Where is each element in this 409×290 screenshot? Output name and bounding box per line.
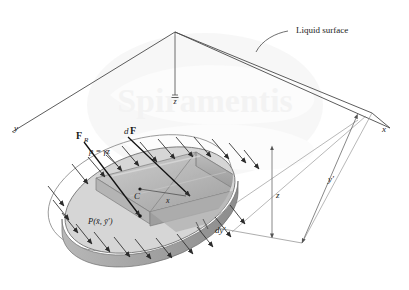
point-P-marker (138, 214, 142, 218)
liquid-surface-label: Liquid surface (296, 25, 348, 35)
hydrostatic-pressure-figure: Spiramentis (0, 0, 409, 290)
pressure-equation-label: p = γz (88, 146, 111, 156)
FR-subscript: R (83, 136, 89, 144)
figure-canvas: Spiramentis (0, 0, 409, 290)
dF-label-d: d (124, 126, 129, 136)
centroid-label: C (134, 191, 141, 201)
dyprime-label: dy′ (215, 225, 226, 235)
y-axis-surface-label: y (13, 123, 18, 133)
yprime-label: y′ (327, 174, 335, 184)
FR-label: F (76, 130, 82, 141)
FR-label-group: F R (76, 130, 89, 144)
z-depth-label: z (275, 190, 280, 200)
dF-label-group: d F (124, 125, 136, 136)
dF-label-F: F (130, 125, 136, 136)
watermark-text: Spiramentis (117, 82, 293, 119)
x-axis-plate-label: x (165, 196, 170, 205)
point-P-label: P(x̄, ȳ′) (87, 216, 113, 226)
x-axis-surface-label: x (381, 124, 386, 134)
